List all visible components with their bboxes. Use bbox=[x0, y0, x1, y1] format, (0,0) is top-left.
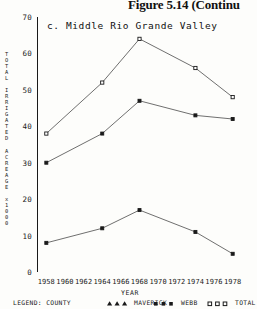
open-square-marker bbox=[206, 300, 232, 307]
y-axis-title-char: 0 bbox=[2, 220, 11, 226]
data-point-marker bbox=[45, 241, 48, 244]
x-axis-tick-label: 1964 bbox=[94, 278, 111, 286]
data-point-marker bbox=[101, 132, 104, 135]
y-axis-tick-label: 30 bbox=[12, 159, 32, 168]
legend-label-total: TOTAL bbox=[235, 299, 256, 306]
series-total bbox=[45, 37, 235, 135]
plot-area bbox=[37, 17, 251, 272]
x-axis-tick-label: 1970 bbox=[149, 278, 166, 286]
chart-canvas bbox=[37, 17, 251, 272]
x-axis-title: YEAR bbox=[121, 289, 139, 297]
legend-title: LEGEND: COUNTY bbox=[13, 299, 71, 306]
chart-page: Figure 5.14 (Continu c. Middle Rio Grand… bbox=[0, 0, 257, 309]
y-axis-tick-label: 70 bbox=[12, 13, 32, 22]
data-point-marker bbox=[45, 132, 48, 135]
data-point-marker bbox=[194, 66, 197, 69]
y-axis-tick-label: 10 bbox=[12, 232, 32, 241]
square-marker bbox=[152, 300, 178, 307]
y-axis-tick-label: 20 bbox=[12, 195, 32, 204]
data-point-marker bbox=[101, 227, 104, 230]
x-axis-tick-label: 1958 bbox=[38, 278, 55, 286]
x-axis-tick-label: 1976 bbox=[205, 278, 222, 286]
x-axis-tick-label: 1960 bbox=[56, 278, 73, 286]
series-maverick bbox=[45, 209, 234, 256]
data-point-marker bbox=[138, 99, 141, 102]
series-line bbox=[46, 210, 232, 254]
x-axis-tick-label: 1968 bbox=[131, 278, 148, 286]
data-point-marker bbox=[231, 96, 234, 99]
data-point-marker bbox=[231, 252, 234, 255]
y-axis-tick-label: 40 bbox=[12, 122, 32, 131]
y-axis-tick-label: 60 bbox=[12, 49, 32, 58]
x-axis-tick-label: 1978 bbox=[224, 278, 241, 286]
y-axis-tick-label: 0 bbox=[12, 268, 32, 277]
figure-caption: Figure 5.14 (Continu bbox=[128, 0, 240, 13]
chart-legend: LEGEND: COUNTY MAVERICK WEBB bbox=[0, 298, 257, 309]
x-axis-tick-label: 1974 bbox=[187, 278, 204, 286]
series-line bbox=[46, 101, 232, 163]
data-point-marker bbox=[101, 81, 104, 84]
data-point-marker bbox=[45, 161, 48, 164]
x-axis-tick-label: 1966 bbox=[112, 278, 129, 286]
data-point-marker bbox=[194, 230, 197, 233]
legend-entry-webb: WEBB bbox=[152, 299, 198, 307]
x-axis-tick-label: 1972 bbox=[168, 278, 185, 286]
data-point-marker bbox=[138, 209, 141, 212]
data-point-marker bbox=[194, 114, 197, 117]
x-axis-tick-label: 1962 bbox=[75, 278, 92, 286]
data-point-marker bbox=[138, 37, 141, 40]
series-line bbox=[46, 39, 232, 134]
legend-label-webb: WEBB bbox=[181, 299, 198, 306]
triangle-marker bbox=[105, 300, 131, 307]
data-point-marker bbox=[231, 118, 234, 121]
legend-entry-total: TOTAL bbox=[206, 299, 256, 307]
y-axis-tick-label: 50 bbox=[12, 86, 32, 95]
